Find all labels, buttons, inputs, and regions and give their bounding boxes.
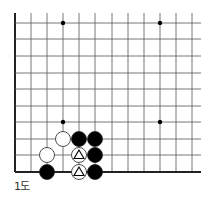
diagram-caption: 1도 (14, 177, 30, 193)
black-stone (88, 165, 103, 180)
star-point-icon (158, 21, 162, 25)
star-point-icon (158, 120, 162, 124)
black-stone (72, 132, 87, 147)
star-point-icon (61, 120, 65, 124)
white-stone (40, 148, 55, 163)
star-point-icon (61, 21, 65, 25)
black-stone (88, 132, 103, 147)
white-stone (56, 132, 71, 147)
black-stone (40, 165, 55, 180)
go-board (0, 0, 217, 205)
black-stone (88, 148, 103, 163)
